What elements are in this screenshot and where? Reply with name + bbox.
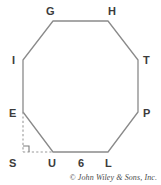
vertex-label-h: H — [108, 6, 116, 17]
right-angle-marker-icon — [23, 146, 29, 152]
vertex-label-g: G — [46, 6, 55, 17]
vertex-label-p: P — [143, 108, 150, 119]
vertex-label-i: I — [12, 55, 15, 66]
copyright-credit: © John Wiley & Sons, Inc. — [70, 173, 157, 182]
octagon-outline — [23, 21, 138, 152]
geometry-figure: G H T P L U E I S 6 © John Wiley & Sons,… — [0, 0, 161, 185]
vertex-label-u: U — [48, 158, 56, 169]
side-length-label: 6 — [78, 158, 84, 169]
vertex-label-e: E — [9, 108, 16, 119]
vertex-label-l: L — [105, 158, 112, 169]
point-label-s: S — [9, 158, 16, 169]
vertex-label-t: T — [143, 55, 150, 66]
